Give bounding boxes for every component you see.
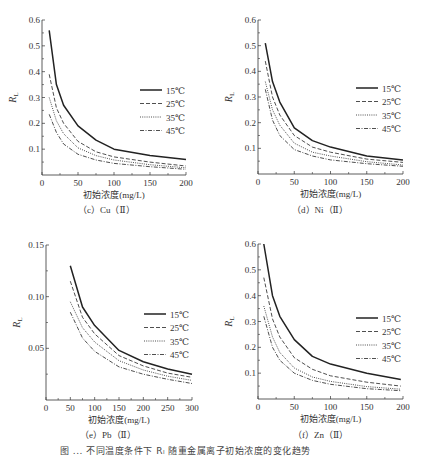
y-axis-label: RL (223, 316, 236, 327)
chart-zn: 0.10.20.30.40.50.6050100150200初始浓度(mg/L)… (0, 0, 422, 430)
panel-caption-zn: （f）Zn（Ⅱ） (293, 428, 348, 441)
series-line-35℃ (264, 306, 401, 389)
x-tick-label: 150 (360, 402, 374, 412)
y-tick-label: 0.3 (245, 317, 257, 327)
legend-label: 45℃ (382, 354, 401, 364)
y-tick-label: 0.5 (245, 265, 257, 275)
legend-label: 25℃ (382, 327, 401, 337)
series-line-45℃ (264, 316, 401, 390)
x-tick-label: 200 (396, 402, 410, 412)
y-tick-label: 0.4 (245, 291, 257, 301)
y-tick-label: 0.2 (245, 342, 256, 352)
x-tick-label: 50 (290, 402, 300, 412)
x-axis-label: 初始浓度(mg/L) (300, 413, 362, 424)
series-line-15℃ (264, 244, 401, 380)
legend-label: 35℃ (382, 341, 401, 351)
x-tick-label: 0 (256, 402, 261, 412)
x-tick-label: 100 (324, 402, 338, 412)
series-line-25℃ (264, 278, 401, 387)
legend-label: 15℃ (382, 314, 401, 324)
y-tick-label: 0.6 (245, 239, 257, 249)
y-tick-label: 0.1 (245, 368, 256, 378)
chart-panel-zn: 0.10.20.30.40.50.6050100150200初始浓度(mg/L)… (0, 0, 211, 454)
figure-caption: 图 ... 不同温度条件下 Rₗ 随重金属离子初始浓度的变化趋势 (60, 444, 311, 457)
